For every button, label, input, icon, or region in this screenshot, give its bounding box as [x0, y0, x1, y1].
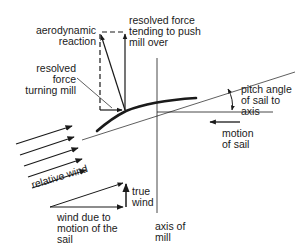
- label-axis-of-mill: axis of mill: [155, 221, 185, 243]
- label-resolved-force-turning: resolved force turning mill: [14, 63, 76, 96]
- label-aerodynamic-reaction: aerodynamic reaction: [30, 25, 96, 47]
- turning-force-leader: [77, 78, 112, 108]
- label-wind-due-to-motion: wind due to motion of the sail: [57, 212, 118, 245]
- wind-vector-triangle: [50, 183, 126, 207]
- label-true-wind: true wind: [132, 186, 154, 208]
- force-parallelogram: [100, 32, 125, 110]
- label-motion-of-sail: motion of sail: [222, 128, 254, 150]
- sail-profile: [97, 98, 196, 131]
- label-resolved-force-push: resolved force tending to push mill over: [129, 15, 201, 48]
- label-pitch-angle: pitch angle of sail to axis: [241, 84, 292, 117]
